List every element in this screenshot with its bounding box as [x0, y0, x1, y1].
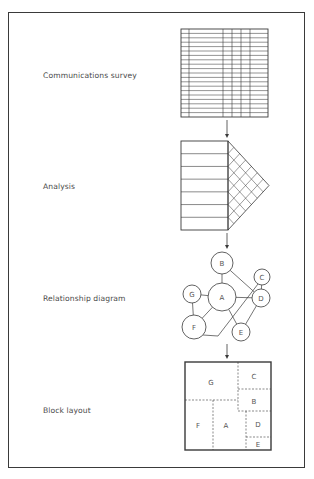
node-label-A: A [220, 294, 225, 302]
block-label-F: F [196, 422, 200, 430]
communications-survey-grid [181, 29, 268, 117]
block-label-A: A [224, 422, 229, 430]
arrow-head-icon [225, 134, 229, 138]
process-diagram: BACDGFE GCBFADE [0, 0, 314, 479]
block-layout-plan: GCBFADE [185, 362, 271, 450]
hatch-line [228, 147, 234, 153]
relationship-graph: BACDGFE [182, 252, 270, 341]
block-label-C: C [252, 373, 257, 381]
block-label-E: E [256, 441, 260, 449]
node-label-G: G [189, 291, 194, 299]
block-label-D: D [255, 421, 260, 429]
node-label-D: D [258, 295, 263, 303]
edge-B-D [230, 270, 254, 292]
edge-G-F [193, 303, 194, 315]
node-label-B: B [220, 260, 225, 268]
edge-E-D [246, 306, 257, 324]
arrow-head-icon [225, 245, 229, 249]
hatch-line [228, 217, 234, 223]
analysis-matrix [181, 141, 269, 230]
node-label-C: C [260, 274, 265, 282]
hatch-line [228, 173, 257, 205]
hatch-line [228, 166, 257, 198]
edge-A-F [202, 307, 212, 318]
arrow-head-icon [225, 355, 229, 359]
node-label-E: E [239, 329, 243, 337]
block-label-B: B [252, 398, 257, 406]
node-label-F: F [192, 324, 196, 332]
analysis-rows-box [181, 141, 228, 230]
edge-G-A [201, 295, 208, 296]
block-label-G: G [208, 379, 213, 387]
